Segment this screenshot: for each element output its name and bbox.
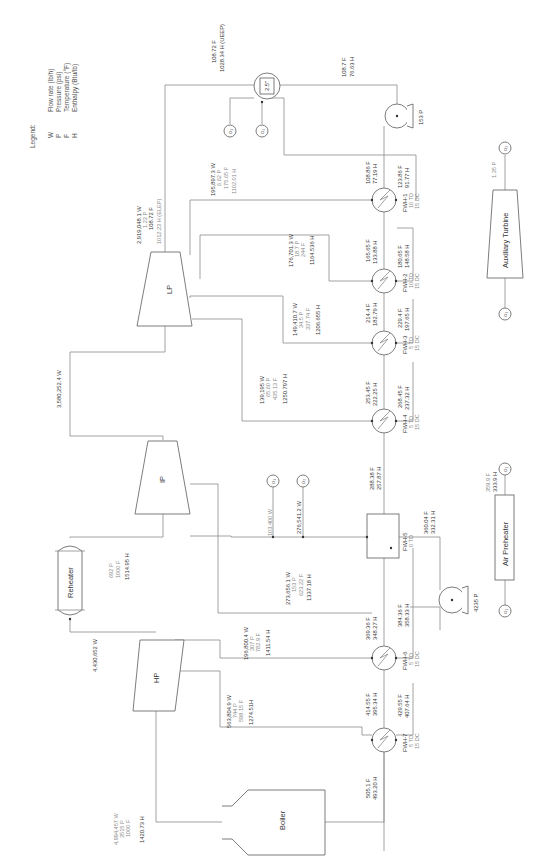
reheat-p: 692 P [108, 563, 114, 578]
lp-label: LP [165, 285, 174, 294]
hp-ext-f: 598.15 F [238, 699, 244, 722]
fwh1-drain-f: 123.86 F [397, 165, 403, 188]
reheater-label: Reheater [66, 567, 75, 598]
fwh4-in-h: 222.25 H [372, 382, 378, 406]
fwh2-drain-f: 180.65 F [397, 245, 403, 268]
alpha2-icon: α₂ [502, 146, 508, 151]
fwh6-drain-f: 384.36 F [397, 604, 403, 627]
cond-in-h: 1028.34 H (UEEP) [219, 24, 225, 72]
lp-ext4-f: 435.13 F [272, 377, 278, 400]
fwh-7[interactable] [372, 728, 396, 752]
fwh-4[interactable] [372, 409, 396, 433]
lp-exh-f: 108.72 F [148, 207, 154, 230]
alpha1-icon: α₁ [227, 129, 233, 134]
boiler-label: Boiler [278, 810, 287, 830]
boiler[interactable]: Boiler [222, 790, 325, 855]
legend-sym-p: P [55, 134, 62, 138]
fwh6-drain-h: 358.33 H [404, 603, 410, 627]
legend-desc-h: Enthalpy (Btu/lb) [71, 64, 79, 112]
fwh-1[interactable] [372, 188, 396, 212]
fwh1-in-f: 108.86 F [365, 161, 371, 184]
lp-ext2-h: 1164.536 H [309, 235, 315, 265]
fwh-5-deaerator[interactable] [367, 514, 399, 558]
ip-exh-p: 153 P [291, 577, 297, 592]
fw-pump-p: 4235 P [473, 593, 479, 612]
ip-ext1-f: 782.9 F [255, 632, 261, 652]
legend-sym-h: H [71, 133, 78, 138]
alpha1-icon: α₁ [270, 479, 276, 484]
ip-turbine[interactable]: IP [135, 441, 190, 514]
reheat-h: 1514.95 H [124, 553, 130, 580]
fwh5-out-h: 332.31 H [430, 510, 436, 534]
legend: Legend: W P F H Flow rate (lb/h) Pressur… [29, 63, 79, 148]
fwh-6[interactable] [372, 646, 396, 670]
legend-desc-w: Flow rate (lb/h) [47, 69, 55, 112]
fwh3-in-h: 182.79 H [372, 302, 378, 326]
boiler-out-f: 1000 F [125, 819, 131, 837]
boiler-in-f: 505.1 F [365, 778, 371, 798]
lp-ext3-h: 1206.655 H [315, 305, 321, 335]
ip-to-lp-w: 3,580,252.4 W [56, 370, 62, 408]
lp-ext2-f: 244 F [300, 242, 306, 257]
lp-ext1-p: 6.62 P [216, 170, 222, 186]
fwh7-in-h: 395.34 H [372, 692, 378, 716]
fwh1-dc: 15 DC [414, 193, 420, 209]
hp-out-w: 4,430,652 W [92, 639, 98, 672]
fwh7-drain-h: 407.64 H [404, 694, 410, 718]
condenser[interactable]: 2.5" [254, 73, 280, 99]
aux-turbine-p: 1.35 P [491, 162, 497, 178]
legend-sym-f: F [63, 134, 70, 138]
auxiliary-turbine[interactable]: Auxiliary Turbine [487, 190, 523, 278]
fwh3-drain-f: 229.4 F [397, 308, 403, 328]
lp-ext3-f: 337.74 F [305, 307, 311, 330]
lp-ext4-p: 65.60 P [265, 377, 271, 397]
lp-exh-h: 1012.23 H (ELEP) [156, 198, 162, 244]
reheater[interactable]: Reheater [55, 546, 85, 615]
cond-out-f: 108.7 F [341, 57, 347, 77]
boiler-out-h: 1420.73 H [139, 816, 145, 843]
fwh1-in-h: 77.19 H [372, 164, 378, 184]
condensate-pump[interactable] [385, 104, 413, 128]
fwh3-drain-h: 197.65 H [404, 307, 410, 331]
alpha1-icon: α₁ [502, 467, 508, 472]
ip-ext-a2-w: 276,541.2 W [296, 501, 302, 534]
fwh5-in-h: 257.87 H [376, 466, 382, 490]
ip-exh-h: 1337.18 H [306, 574, 312, 601]
air-preheater[interactable]: Air Preheater [495, 495, 514, 580]
alpha1-icon: α₁ [502, 609, 508, 614]
legend-desc-f: Temperature (°F) [63, 63, 71, 112]
fwh2-drain-h: 148.58 H [404, 244, 410, 268]
cond-pump-p: 153 P [418, 110, 424, 125]
fwh4-drain-f: 268.45 F [397, 385, 403, 408]
stream-labels: 4,994,457 W 3515 P 1000 F 1420.73 H 4,43… [56, 24, 498, 845]
legend-title: Legend: [29, 124, 37, 148]
fwh7-in-f: 414.55 F [365, 693, 371, 716]
fwh2-dc: 15 DC [414, 273, 420, 289]
lp-ext1-f: 175.65 F [223, 166, 229, 189]
fwh5-in-f: 288.38 F [369, 467, 375, 490]
alpha4-icon: α₄ [259, 128, 265, 134]
condenser-label: 2.5" [264, 81, 270, 91]
fwh5-td: 0 TD [408, 535, 414, 547]
hp-turbine[interactable]: HP [133, 640, 184, 711]
fwh-2[interactable] [372, 269, 396, 293]
air-preheater-label: Air Preheater [501, 521, 510, 566]
fwh2-in-h: 133.88 H [372, 240, 378, 264]
fwh6-in-f: 369.36 F [365, 617, 371, 640]
lp-turbine[interactable]: LP [137, 252, 192, 326]
aux-turbine-label: Auxiliary Turbine [501, 213, 510, 268]
feedwater-pump[interactable] [439, 586, 468, 614]
hp-label: HP [152, 673, 161, 683]
fwh6-in-h: 348.27 H [372, 616, 378, 640]
fwh4-in-f: 253.45 F [365, 381, 371, 404]
lp-ext3-p: 34.5 P [298, 312, 304, 328]
reheat-f: 1000 F [115, 560, 121, 578]
legend-sym-w: W [47, 131, 54, 138]
fwh-3[interactable] [372, 331, 396, 355]
fwh1-drain-h: 91.77 H [404, 168, 410, 188]
fwh4-drain-h: 237.32 H [404, 386, 410, 410]
fwh6-dc: 15 DC [414, 651, 420, 667]
ip-exh-f: 623.22 F [298, 573, 304, 596]
airph-f: 359.9 F [485, 472, 491, 492]
ip-ext1-h: 1411.54 H [265, 630, 271, 656]
